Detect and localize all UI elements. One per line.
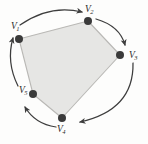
vertex-label-v2-subscript: 2 [90, 8, 93, 15]
vertex-label-v3-subscript: 3 [134, 54, 137, 61]
arc-v4-v5 [25, 107, 56, 127]
vertex-dot-v4 [58, 114, 66, 122]
arc-v5-v1 [10, 38, 18, 86]
vertex-label-v4-subscript: 4 [62, 128, 65, 135]
vertex-label-v4: V4 [57, 125, 66, 135]
vertex-label-v1-subscript: 1 [16, 25, 19, 32]
figure-canvas [0, 0, 148, 144]
vertex-label-v5-subscript: 5 [24, 89, 27, 96]
vertex-dot-v2 [84, 17, 92, 25]
vertex-dot-v1 [15, 35, 23, 43]
vertex-label-v3: V3 [129, 51, 138, 61]
pentagon-shape [19, 21, 120, 118]
geometry-figure: V1V2V3V4V5 [0, 0, 148, 144]
vertex-dot-v5 [29, 90, 37, 98]
arc-v1-v2 [20, 10, 82, 25]
vertex-label-v5: V5 [19, 86, 28, 96]
vertex-dot-v3 [116, 51, 124, 59]
vertex-label-v2: V2 [85, 5, 94, 15]
vertex-label-v1: V1 [11, 22, 20, 32]
